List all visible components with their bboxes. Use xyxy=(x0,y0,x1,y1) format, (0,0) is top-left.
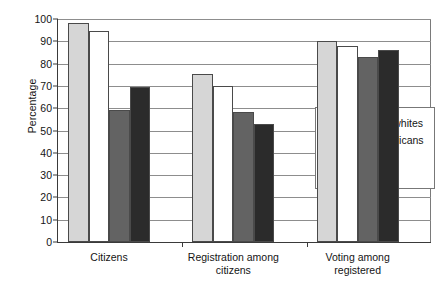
y-tick-label: 10 xyxy=(40,214,52,226)
y-tick-label: 0 xyxy=(46,236,52,248)
bar xyxy=(337,46,358,242)
bar xyxy=(317,41,338,242)
y-tick-label: 30 xyxy=(40,169,52,181)
y-tick-label: 40 xyxy=(40,147,52,159)
bar xyxy=(130,87,151,242)
plot-area: 0102030405060708090100 CitizensRegistrat… xyxy=(57,19,431,243)
y-tick-label: 50 xyxy=(40,125,52,137)
bar xyxy=(213,86,234,242)
x-axis-label: Citizens xyxy=(90,251,127,264)
bar xyxy=(68,23,89,242)
y-tick-label: 70 xyxy=(40,80,52,92)
bars-layer xyxy=(58,19,431,242)
bar xyxy=(378,50,399,242)
x-axis-tick xyxy=(307,242,308,247)
bar xyxy=(192,74,213,242)
bar xyxy=(89,31,110,242)
y-tick-label: 100 xyxy=(34,13,52,25)
x-axis-label: Voting among registered xyxy=(326,251,390,277)
bar xyxy=(254,124,275,242)
bar-chart: Percentage 0102030405060708090100 Citize… xyxy=(0,0,448,287)
bar xyxy=(358,57,379,242)
x-axis-label: Registration among citizens xyxy=(188,251,279,277)
y-tick-label: 90 xyxy=(40,35,52,47)
y-tick-label: 80 xyxy=(40,58,52,70)
y-axis-title: Percentage xyxy=(26,36,38,176)
y-tick-label: 60 xyxy=(40,102,52,114)
x-axis-tick xyxy=(182,242,183,247)
y-tick-label: 20 xyxy=(40,191,52,203)
bar xyxy=(109,110,130,242)
bar xyxy=(233,112,254,242)
